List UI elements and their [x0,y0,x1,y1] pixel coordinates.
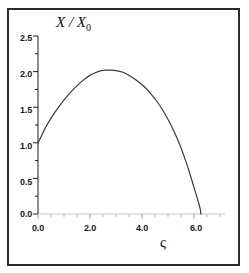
plot-area [0,0,249,273]
figure-container: X / X0 ς 2.5 2.0 1.5 1.0 0.5 0.0 0.0 2.0… [0,0,249,273]
data-curve [38,70,201,214]
